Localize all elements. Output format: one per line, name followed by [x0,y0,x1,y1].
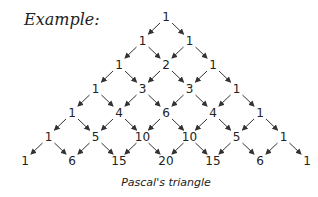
triangle-number: 4 [115,107,123,119]
triangle-number: 3 [186,83,194,95]
arrow-icon [172,95,184,106]
triangle-number: 6 [68,155,76,167]
triangle-number: 1 [115,59,123,71]
triangle-number: 6 [256,155,264,167]
arrow-icon [266,143,278,154]
triangle-number: 5 [233,131,241,143]
triangle-number: 1 [68,107,76,119]
arrow-icon [149,23,161,34]
triangle-number: 15 [205,155,220,167]
arrow-icon [219,119,231,130]
arrow-icon [149,95,161,106]
arrow-icon [149,143,161,154]
triangle-number: 4 [209,107,217,119]
arrow-icon [125,71,137,82]
arrow-icon [196,71,208,82]
arrow-icon [78,95,90,106]
arrow-icon [196,119,208,130]
triangle-number: 1 [256,107,264,119]
diagram-caption: Pascal's triangle [121,176,211,189]
arrow-icon [243,143,255,154]
triangle-number: 10 [135,131,150,143]
arrow-icon [172,143,184,154]
arrow-icon [149,47,161,58]
arrow-icon [219,71,231,82]
triangle-number: 1 [21,155,29,167]
triangle-number: 1 [303,155,311,167]
arrow-icon [55,143,67,154]
arrow-icon [172,23,184,34]
triangle-number: 1 [139,35,147,47]
triangle-number: 1 [280,131,288,143]
arrow-icon [55,119,67,130]
triangle-number: 5 [92,131,100,143]
triangle-number: 1 [233,83,241,95]
arrow-icon [149,119,161,130]
arrow-icon [102,71,114,82]
arrow-icon [172,47,184,58]
triangle-number: 15 [111,155,126,167]
triangle-number: 1 [209,59,217,71]
arrow-icon [290,143,302,154]
arrow-icon [78,119,90,130]
arrow-icon [219,143,231,154]
triangle-number: 10 [182,131,197,143]
arrow-icon [172,119,184,130]
arrow-icon [78,143,90,154]
arrow-icon [196,95,208,106]
arrow-icon [243,119,255,130]
arrow-icon [125,95,137,106]
arrow-icon [172,71,184,82]
arrow-icon [243,95,255,106]
arrow-icon [219,95,231,106]
arrow-icon [31,143,43,154]
triangle-number: 1 [92,83,100,95]
triangle-number: 2 [162,59,170,71]
arrow-icon [102,119,114,130]
arrow-icon [149,71,161,82]
arrow-icon [125,47,137,58]
arrow-icon [266,119,278,130]
triangle-number: 1 [186,35,194,47]
arrow-icon [196,143,208,154]
arrow-icon [125,119,137,130]
arrow-icon [102,143,114,154]
arrow-icon [196,47,208,58]
triangle-number: 1 [45,131,53,143]
triangle-number: 20 [158,155,173,167]
triangle-number: 3 [139,83,147,95]
arrow-icon [125,143,137,154]
arrow-icon [102,95,114,106]
triangle-number: 6 [162,107,170,119]
triangle-number: 1 [162,11,170,23]
